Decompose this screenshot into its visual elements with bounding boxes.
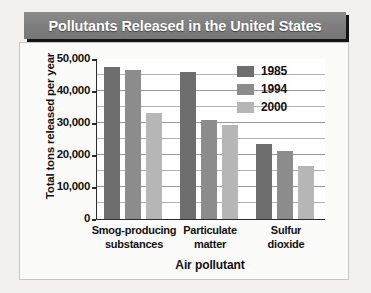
bar bbox=[277, 151, 294, 219]
figure: Pollutants Released in the United States… bbox=[19, 12, 349, 280]
bar bbox=[146, 113, 163, 219]
legend-item: 1985 bbox=[237, 63, 287, 79]
legend-label: 2000 bbox=[261, 100, 287, 114]
y-axis-tick-label: 20,000 bbox=[30, 148, 90, 160]
x-axis-title: Air pollutant bbox=[96, 258, 324, 272]
plot-inner bbox=[97, 59, 325, 219]
x-axis-category-label-line: dioxide bbox=[234, 238, 338, 252]
legend-swatch bbox=[237, 66, 254, 77]
y-axis-tick-label: 40,000 bbox=[30, 84, 90, 96]
legend-label: 1985 bbox=[261, 64, 287, 78]
bar bbox=[298, 166, 315, 219]
bar bbox=[201, 120, 218, 219]
bar bbox=[222, 125, 239, 219]
bar bbox=[125, 70, 142, 219]
y-axis-tick-label: 50,000 bbox=[30, 52, 90, 64]
legend-item: 2000 bbox=[237, 99, 287, 115]
bar bbox=[256, 144, 273, 219]
x-axis-category-label: Sulfurdioxide bbox=[234, 224, 338, 251]
legend-swatch bbox=[237, 84, 254, 95]
bar-chart: Total tons released per year 010,00020,0… bbox=[19, 42, 349, 280]
y-axis-tick-label: 0 bbox=[30, 212, 90, 224]
page-title: Pollutants Released in the United States bbox=[48, 18, 321, 34]
chart-legend: 198519942000 bbox=[237, 63, 287, 117]
plot-area bbox=[96, 59, 325, 220]
y-axis-tick-label: 10,000 bbox=[30, 180, 90, 192]
bar bbox=[104, 67, 121, 219]
legend-item: 1994 bbox=[237, 81, 287, 97]
x-axis-category-label-line: Sulfur bbox=[234, 224, 338, 238]
chart-title-bar: Pollutants Released in the United States bbox=[24, 12, 346, 39]
bar bbox=[180, 72, 197, 219]
legend-label: 1994 bbox=[261, 82, 287, 96]
y-axis-tick-label: 30,000 bbox=[30, 116, 90, 128]
legend-swatch bbox=[237, 102, 254, 113]
